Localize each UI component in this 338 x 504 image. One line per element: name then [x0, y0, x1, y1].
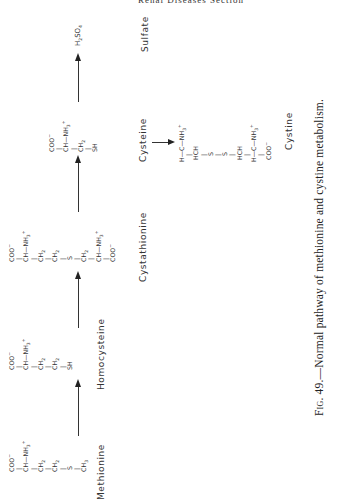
arrow-cysteine-to-sulfate — [78, 60, 79, 102]
cystine-structure: H—C—NH3+ | HCH | S | S | HCH | H—C—NH3+ … — [178, 124, 272, 162]
arrow-cysteine-to-cystine — [152, 142, 169, 143]
caption-text: —Normal pathway of methionine and cystin… — [313, 99, 325, 379]
cystathionine-structure: COO− | CH—NH3+ | CH2 | CH2 | S | CH2 | C… — [8, 230, 116, 262]
cystathionine-label: Cystathionine — [138, 212, 148, 282]
arrow-methionine-to-homocysteine — [78, 386, 79, 436]
methionine-structure: COO− | CH—NH3+ | CH2 | CH2 | S | CH3 — [8, 440, 87, 472]
sulfuric-acid-formula: H2SO4 — [75, 25, 82, 46]
homocysteine-label: Homocysteine — [96, 318, 106, 390]
figure-number: Fig. 49. — [313, 379, 325, 416]
figure-caption: Fig. 49.—Normal pathway of methionine an… — [313, 99, 325, 416]
homocysteine-structure: COO− | CH—NH3+ | CH2 | CH2 | SH — [8, 338, 73, 370]
cystine-label: Cystine — [284, 112, 294, 150]
arrow-cystathionine-to-cysteine — [78, 162, 79, 212]
sulfate-label: Sulfate — [140, 16, 150, 52]
running-header: Renal Diseases Section — [138, 0, 313, 6]
cysteine-structure: COO− | CH—NH3+ | CH2 | SH — [48, 120, 99, 152]
methionine-label: Methionine — [96, 444, 106, 500]
cysteine-label: Cysteine — [138, 118, 148, 162]
arrow-homocysteine-to-cystathionine — [78, 278, 79, 328]
